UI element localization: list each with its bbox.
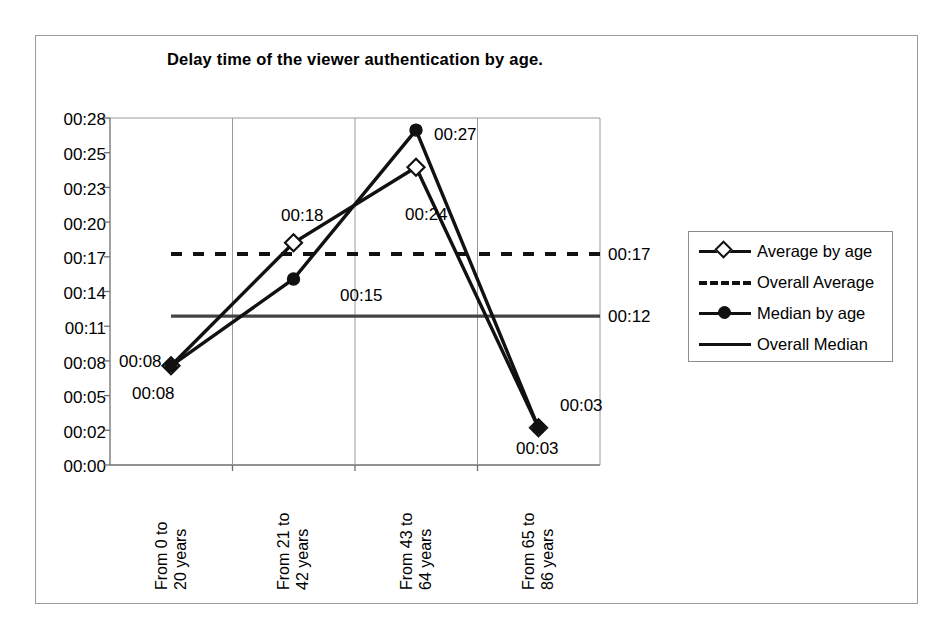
data-label-median-4: 00:03 bbox=[516, 440, 559, 457]
reference-label-overall-median: 00:12 bbox=[608, 308, 651, 325]
x-tick-label-line: From 65 to bbox=[519, 470, 538, 590]
chart-figure: Delay time of the viewer authentication … bbox=[0, 0, 948, 633]
x-tick-label-line: From 43 to bbox=[397, 470, 416, 590]
chart-title: Delay time of the viewer authentication … bbox=[70, 50, 640, 69]
x-tick-label-line: 20 years bbox=[171, 470, 190, 590]
reference-label-overall-average: 00:17 bbox=[608, 246, 651, 263]
legend-item-overall-average: Overall Average bbox=[697, 267, 874, 297]
chart-legend: Average by age Overall Average Median by… bbox=[688, 231, 893, 362]
data-label-average-1: 00:08 bbox=[119, 353, 162, 370]
legend-key-line-filled-circle-icon bbox=[697, 303, 753, 323]
x-tick-label-line: 64 years bbox=[416, 470, 435, 590]
legend-item-overall-median: Overall Median bbox=[697, 329, 868, 359]
y-tick-label: 00:08 bbox=[34, 355, 106, 372]
data-label-average-3: 00:24 bbox=[405, 206, 448, 223]
data-label-median-1: 00:08 bbox=[132, 385, 175, 402]
x-tick-label-line: From 0 to bbox=[152, 470, 171, 590]
y-tick-label: 00:20 bbox=[34, 216, 106, 233]
data-label-average-2: 00:18 bbox=[281, 207, 324, 224]
x-tick-label-0: From 0 to 20 years bbox=[111, 472, 231, 592]
y-tick-label: 00:00 bbox=[34, 458, 106, 475]
y-axis-tick-labels: 00:28 00:25 00:23 00:20 00:17 00:14 00:1… bbox=[34, 0, 106, 633]
x-tick-label-1: From 21 to 42 years bbox=[233, 472, 353, 592]
legend-label: Overall Average bbox=[753, 273, 874, 291]
legend-label: Median by age bbox=[753, 304, 865, 322]
legend-key-solid-line-icon bbox=[697, 334, 753, 354]
y-tick-label: 00:23 bbox=[34, 181, 106, 198]
y-tick-label: 00:14 bbox=[34, 285, 106, 302]
data-label-average-4: 00:03 bbox=[560, 397, 603, 414]
y-tick-label: 00:17 bbox=[34, 250, 106, 267]
legend-label: Overall Median bbox=[753, 335, 868, 353]
y-tick-label: 00:28 bbox=[34, 111, 106, 128]
legend-key-dashed-line-icon bbox=[697, 272, 753, 292]
legend-key-line-open-diamond-icon bbox=[697, 241, 753, 261]
y-tick-label: 00:25 bbox=[34, 146, 106, 163]
x-tick-label-line: 42 years bbox=[293, 470, 312, 590]
legend-item-median-by-age: Median by age bbox=[697, 298, 865, 328]
y-tick-label: 00:02 bbox=[34, 424, 106, 441]
x-tick-label-3: From 65 to 86 years bbox=[478, 472, 598, 592]
x-tick-label-line: 86 years bbox=[538, 470, 557, 590]
legend-label: Average by age bbox=[753, 242, 872, 260]
legend-item-average-by-age: Average by age bbox=[697, 236, 872, 266]
data-label-median-3: 00:27 bbox=[434, 126, 477, 143]
x-tick-label-line: From 21 to bbox=[274, 470, 293, 590]
data-label-median-2: 00:15 bbox=[340, 287, 383, 304]
y-tick-label: 00:11 bbox=[34, 320, 106, 337]
y-tick-label: 00:05 bbox=[34, 389, 106, 406]
x-tick-label-2: From 43 to 64 years bbox=[356, 472, 476, 592]
